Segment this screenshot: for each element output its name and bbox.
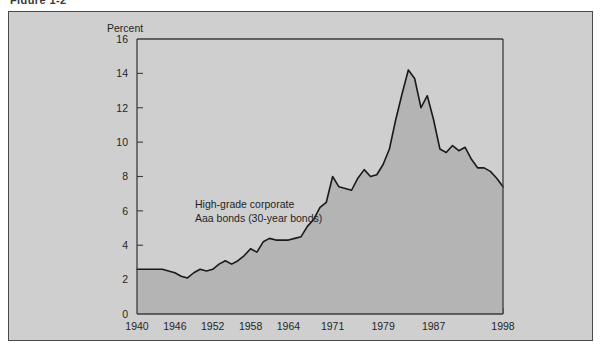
x-tick-label: 1958	[239, 320, 263, 332]
y-tick-label: 4	[122, 239, 128, 251]
y-tick-label: 14	[116, 67, 128, 79]
figure-caption-clipped: Figure 1-2	[10, 0, 270, 4]
x-tick-label: 1940	[125, 320, 149, 332]
series-annotation-line-2: Aaa bonds (30-year bonds)	[195, 212, 322, 224]
figure-root: Figure 1-2 Percent 0246810121416 1940194…	[0, 0, 601, 353]
x-tick-label: 1964	[277, 320, 301, 332]
y-tick-label: 8	[122, 170, 128, 182]
x-tick-label: 1946	[163, 320, 187, 332]
y-tick-label: 12	[116, 102, 128, 114]
y-tick-label: 10	[116, 136, 128, 148]
x-tick-label: 1987	[422, 320, 446, 332]
x-tick-label: 1971	[321, 320, 345, 332]
y-tick-label: 16	[116, 33, 128, 45]
series-annotation-line-1: High-grade corporate	[195, 198, 294, 210]
chart-panel: Percent 0246810121416 194019461952195819…	[8, 11, 593, 341]
x-tick-label: 1998	[491, 320, 515, 332]
y-tick-label: 0	[122, 308, 128, 320]
y-tick-label: 2	[122, 273, 128, 285]
y-tick-label: 6	[122, 205, 128, 217]
x-tick-label: 1952	[201, 320, 225, 332]
x-tick-label: 1979	[371, 320, 395, 332]
bond-yield-area-chart: Percent 0246810121416 194019461952195819…	[9, 12, 592, 340]
